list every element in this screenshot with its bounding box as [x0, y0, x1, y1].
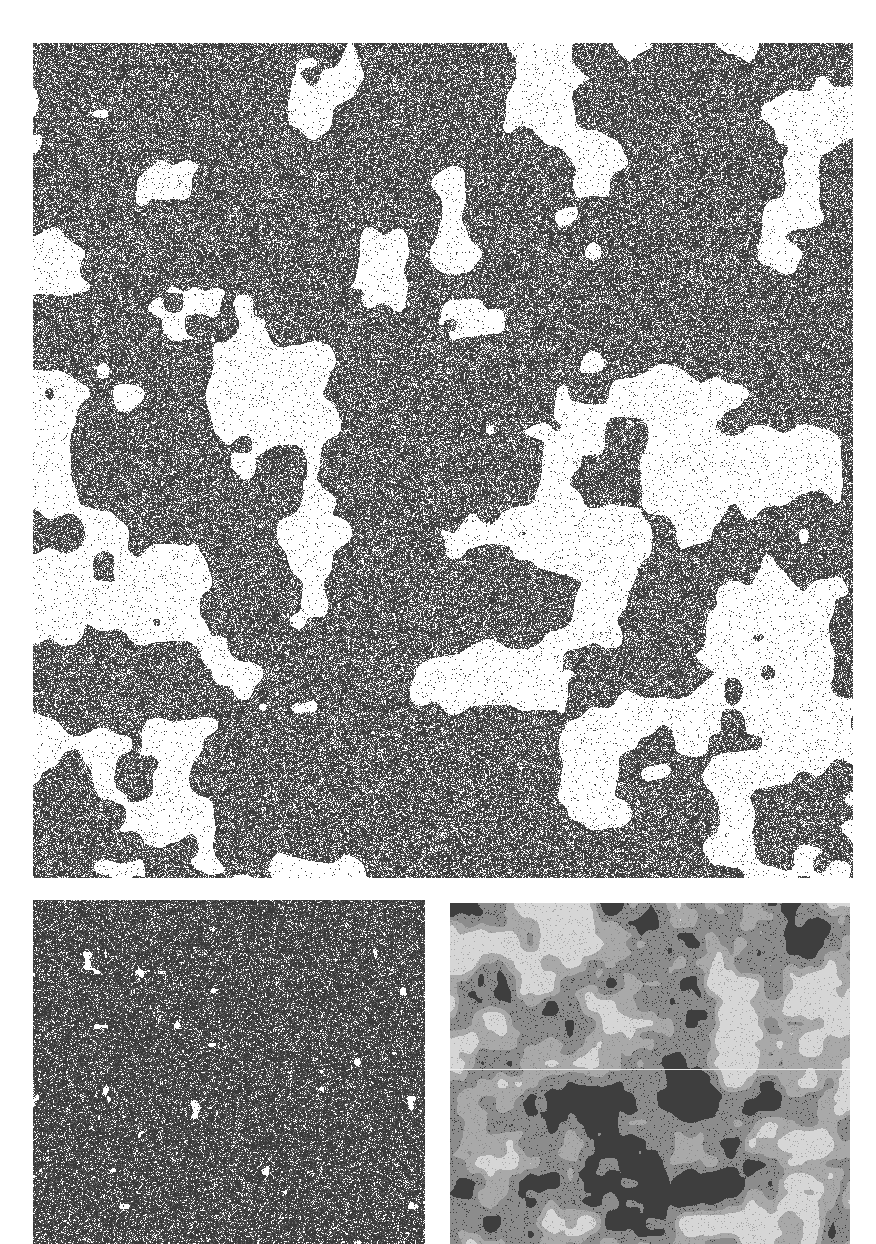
bottom-left-cluster-image: [33, 900, 425, 1244]
bottom-left-cluster-panel: [33, 900, 425, 1244]
bottom-right-domain-image: [450, 903, 850, 1244]
top-cluster-panel: [33, 43, 853, 878]
top-cluster-image: [33, 43, 853, 878]
bottom-right-domain-panel: [450, 903, 850, 1244]
